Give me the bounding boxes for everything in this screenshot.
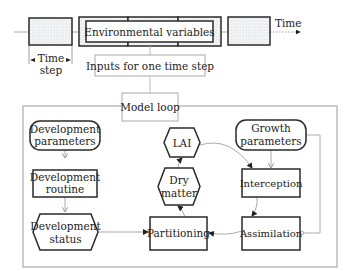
node-growth-parameters-line2: parameters — [240, 135, 301, 147]
node-partitioning-label: Partitioning — [147, 227, 210, 239]
time-step-label-line2: step — [40, 64, 63, 76]
node-interception-label: Interception — [240, 178, 303, 189]
node-development-routine-line2: routine — [46, 183, 85, 195]
model-loop-title: Model loop — [120, 101, 180, 113]
timeline: Environmental variables Time Time step I… — [14, 17, 302, 93]
time-step-arrow-left-icon — [30, 58, 35, 62]
node-development-parameters-line2: parameters — [34, 135, 95, 147]
node-development-routine-line1: Development — [30, 171, 101, 183]
future-step-box — [228, 17, 270, 45]
edge-growthparams-assimilation — [303, 135, 320, 233]
time-axis-label: Time — [275, 17, 302, 29]
node-growth-parameters-line1: Growth — [251, 122, 291, 134]
node-development-status-line2: status — [49, 233, 81, 245]
time-step-arrow-right-icon — [66, 58, 71, 62]
inputs-label: Inputs for one time step — [86, 60, 214, 72]
node-development-status-line1: Development — [30, 220, 101, 232]
edge-interception-assimilation — [252, 197, 257, 216]
node-development-parameters-line1: Development — [30, 123, 101, 135]
node-dry-matter-line2: matter — [161, 187, 198, 199]
time-step-box — [29, 18, 72, 45]
edge-drymatter-lai — [178, 158, 182, 168]
environmental-variables-label: Environmental variables — [84, 26, 214, 38]
node-lai-label: LAI — [173, 137, 192, 149]
time-step-label-line1: Time — [38, 52, 65, 64]
node-assimilation-label: Assimilation — [239, 228, 303, 239]
edge-assimilation-partitioning — [209, 231, 242, 234]
node-dry-matter-line1: Dry — [169, 174, 188, 186]
model-loop: Model loop Development parameters Develo… — [23, 93, 337, 267]
edge-partitioning-drymatter — [178, 206, 185, 217]
crop-model-diagram: Environmental variables Time Time step I… — [0, 0, 352, 271]
